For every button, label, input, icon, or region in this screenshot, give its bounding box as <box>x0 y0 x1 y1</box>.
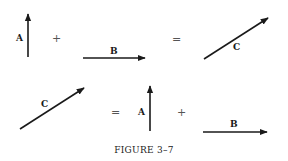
bottom-vector-a-label: A <box>137 107 146 117</box>
top-equation: A + B = C <box>15 14 268 59</box>
top-vector-b: B <box>83 46 145 58</box>
arrow-diagonal-icon <box>204 18 268 59</box>
figure-caption: FIGURE 3–7 <box>114 145 174 155</box>
bottom-vector-c-label: C <box>41 99 48 109</box>
bottom-vector-a: A <box>137 86 150 131</box>
bottom-vector-b: B <box>203 119 267 132</box>
top-vector-a: A <box>15 14 28 57</box>
arrow-diagonal-icon <box>20 88 84 129</box>
top-equals-sign: = <box>172 33 181 46</box>
top-plus-sign: + <box>52 32 61 45</box>
bottom-vector-c: C <box>20 88 84 129</box>
top-vector-a-label: A <box>15 33 24 43</box>
top-vector-b-label: B <box>110 46 118 56</box>
top-vector-c-label: C <box>233 42 240 52</box>
top-vector-c: C <box>204 18 268 59</box>
bottom-equals-sign: = <box>111 106 120 119</box>
bottom-plus-sign: + <box>177 106 186 119</box>
bottom-vector-b-label: B <box>230 119 238 129</box>
vector-addition-figure: A + B = C C = A + B FIGURE 3–7 <box>0 0 288 161</box>
bottom-equation: C = A + B <box>20 86 267 132</box>
